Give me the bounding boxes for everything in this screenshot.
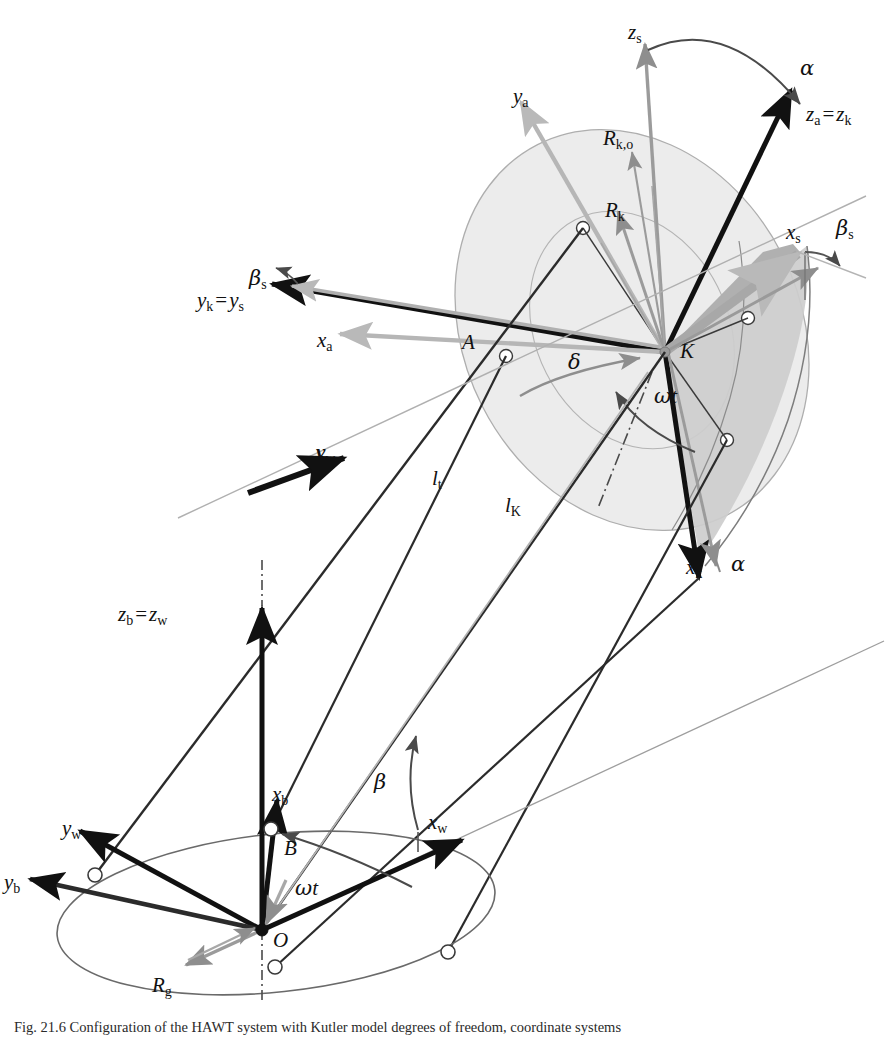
label-R-k: Rk [605, 200, 625, 224]
label-y-a: ya [513, 86, 529, 110]
diagram-canvas [0, 0, 893, 1038]
label-R-k-o: Rk,o [603, 128, 633, 152]
caption-text: Fig. 21.6 Configuration of the HAWT syst… [14, 1019, 621, 1035]
label-x-k: xk [686, 557, 702, 581]
ground-circle [49, 811, 503, 1014]
ground-node-right [441, 945, 455, 959]
label-y-b: yb [4, 872, 20, 896]
line-to-node-A [271, 356, 506, 829]
label-x-b: xb [272, 784, 288, 808]
label-z-s: zs [628, 22, 642, 46]
label-beta-s-l: βs [249, 268, 267, 292]
line-blade-trailing-2 [275, 578, 699, 967]
label-x-s: xs [786, 222, 801, 246]
ground-node-left [88, 868, 102, 882]
label-l-K: lK [505, 495, 521, 519]
label-z-b-z-w: zb=zw [118, 604, 167, 628]
label-R-g: Rg [152, 975, 172, 999]
ground-node-bottom [268, 960, 282, 974]
arc-beta-s-left [276, 268, 298, 284]
label-v-w: vw [316, 442, 335, 466]
arc-alpha-bottom [716, 560, 720, 572]
label-x-a: xa [317, 330, 333, 354]
label-omega-t-k: ωt [654, 386, 677, 407]
origin-point-O [256, 924, 268, 936]
label-O-node: O [273, 930, 288, 951]
label-alpha-top: α [800, 58, 814, 79]
label-alpha-bot: α [731, 554, 745, 575]
node-B-marker [264, 822, 278, 836]
label-omega-t-o: ωt [295, 878, 318, 899]
label-z-a-z-k: za=zk [806, 104, 851, 128]
label-y-k-y-s: yk=ys [197, 290, 244, 314]
vector-y-w [80, 831, 262, 930]
label-K-node: K [680, 341, 694, 362]
vector-y-b [30, 879, 262, 930]
vector-R-g [186, 930, 262, 965]
arc-beta-s-right [805, 252, 840, 266]
figure-caption: Fig. 21.6 Configuration of the HAWT syst… [14, 1018, 884, 1038]
arc-beta-tilt [410, 736, 418, 830]
label-B-node: B [284, 838, 297, 859]
vector-R-g-incoming [188, 928, 255, 960]
rotor-assembly [272, 40, 876, 592]
figure-root: zsαza=zkyaRk,oRkxsβsβsyk=ysxaAKδωtvwltlK… [0, 0, 893, 1038]
label-delta: δ [568, 352, 581, 373]
arc-alpha-top [648, 40, 800, 104]
label-l-t: lt [432, 468, 442, 492]
label-y-w: yw [62, 818, 81, 842]
tower-and-ground-frame [30, 560, 503, 1015]
label-beta: β [374, 772, 386, 793]
line-l-t [95, 228, 583, 875]
label-beta-s-r: βs [836, 218, 854, 242]
label-x-w: xw [428, 812, 447, 836]
label-A-node: A [462, 332, 475, 353]
